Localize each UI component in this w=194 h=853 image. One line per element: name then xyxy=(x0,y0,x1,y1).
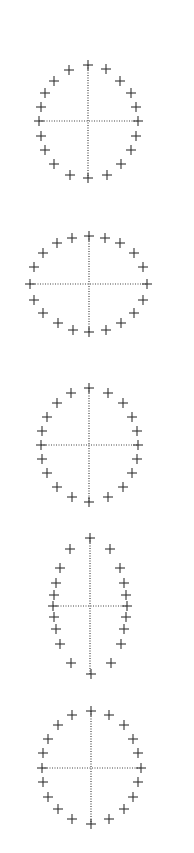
plus-marker-icon xyxy=(104,814,114,824)
plus-marker-icon xyxy=(101,325,111,335)
plus-marker-icon xyxy=(53,804,63,814)
plus-marker-icon xyxy=(133,748,143,758)
plus-marker-icon xyxy=(66,388,76,398)
plus-marker-icon xyxy=(127,468,137,478)
plus-marker-icon xyxy=(119,624,129,634)
plus-marker-icon xyxy=(142,279,152,289)
plus-marker-icon xyxy=(100,233,110,243)
plus-marker-icon xyxy=(116,639,126,649)
plus-marker-icon xyxy=(42,412,52,422)
plus-marker-icon xyxy=(115,563,125,573)
plus-marker-icon xyxy=(132,426,142,436)
plus-marker-icon xyxy=(29,262,39,272)
plus-marker-icon xyxy=(116,159,126,169)
plus-marker-icon xyxy=(131,102,141,112)
plus-marker-icon xyxy=(67,814,77,824)
plus-marker-icon xyxy=(85,533,95,543)
plus-marker-icon xyxy=(86,819,96,829)
plus-marker-icon xyxy=(131,131,141,141)
plus-marker-icon xyxy=(38,248,48,258)
plus-marker-icon xyxy=(66,658,76,668)
plus-marker-icon xyxy=(115,76,125,86)
plus-marker-icon xyxy=(37,426,47,436)
plus-marker-icon xyxy=(55,563,65,573)
plus-marker-icon xyxy=(106,658,116,668)
plus-marker-icon xyxy=(68,325,78,335)
plus-marker-icon xyxy=(40,88,50,98)
plus-marker-icon xyxy=(53,720,63,730)
plus-marker-icon xyxy=(133,440,143,450)
plus-marker-icon xyxy=(118,482,128,492)
plus-marker-icon xyxy=(119,804,129,814)
plus-marker-icon xyxy=(126,88,136,98)
plus-marker-icon xyxy=(65,170,75,180)
plus-marker-icon xyxy=(119,578,129,588)
plus-marker-icon xyxy=(38,308,48,318)
plus-marker-icon xyxy=(34,116,44,126)
plus-marker-icon xyxy=(36,440,46,450)
plus-marker-icon xyxy=(84,497,94,507)
plus-marker-icon xyxy=(42,468,52,478)
plus-marker-icon xyxy=(36,102,46,112)
plus-marker-icon xyxy=(38,748,48,758)
plus-marker-icon xyxy=(105,544,115,554)
plus-marker-icon xyxy=(84,231,94,241)
plus-marker-icon xyxy=(83,60,93,70)
plus-marker-icon xyxy=(86,669,96,679)
plus-marker-icon xyxy=(138,262,148,272)
plus-marker-icon xyxy=(40,145,50,155)
plus-marker-icon xyxy=(103,492,113,502)
plus-marker-icon xyxy=(104,710,114,720)
plus-marker-icon xyxy=(118,398,128,408)
plus-marker-icon xyxy=(64,65,74,75)
plus-marker-icon xyxy=(36,131,46,141)
ellipse-2 xyxy=(25,231,152,337)
plus-marker-icon xyxy=(121,590,131,600)
plus-marker-icon xyxy=(115,238,125,248)
plus-marker-icon xyxy=(49,612,59,622)
plus-marker-icon xyxy=(127,412,137,422)
ellipse-1 xyxy=(34,60,143,183)
plus-marker-icon xyxy=(83,173,93,183)
plus-marker-icon xyxy=(49,159,59,169)
plus-marker-icon xyxy=(25,279,35,289)
plus-marker-icon xyxy=(103,388,113,398)
plus-marker-icon xyxy=(128,734,138,744)
plus-marker-icon xyxy=(37,454,47,464)
ellipse-diagram xyxy=(0,0,194,853)
plus-marker-icon xyxy=(122,601,132,611)
plus-marker-icon xyxy=(136,763,146,773)
plus-marker-icon xyxy=(119,720,129,730)
plus-marker-icon xyxy=(37,763,47,773)
plus-marker-icon xyxy=(121,612,131,622)
plus-marker-icon xyxy=(52,482,62,492)
plus-marker-icon xyxy=(116,318,126,328)
plus-marker-icon xyxy=(132,454,142,464)
plus-marker-icon xyxy=(48,601,58,611)
plus-marker-icon xyxy=(84,383,94,393)
plus-marker-icon xyxy=(29,295,39,305)
plus-marker-icon xyxy=(38,777,48,787)
plus-marker-icon xyxy=(53,318,63,328)
plus-marker-icon xyxy=(101,64,111,74)
plus-marker-icon xyxy=(102,170,112,180)
plus-marker-icon xyxy=(129,248,139,258)
plus-marker-icon xyxy=(49,590,59,600)
plus-marker-icon xyxy=(55,639,65,649)
plus-marker-icon xyxy=(133,116,143,126)
plus-marker-icon xyxy=(126,145,136,155)
ellipse-3 xyxy=(36,383,143,507)
plus-marker-icon xyxy=(52,238,62,248)
plus-marker-icon xyxy=(138,295,148,305)
plus-marker-icon xyxy=(43,792,53,802)
plus-marker-icon xyxy=(67,710,77,720)
plus-marker-icon xyxy=(84,327,94,337)
ellipse-5 xyxy=(37,706,146,829)
plus-marker-icon xyxy=(67,233,77,243)
plus-marker-icon xyxy=(52,398,62,408)
plus-marker-icon xyxy=(51,624,61,634)
plus-marker-icon xyxy=(67,492,77,502)
plus-marker-icon xyxy=(133,777,143,787)
plus-marker-icon xyxy=(65,544,75,554)
plus-marker-icon xyxy=(86,706,96,716)
